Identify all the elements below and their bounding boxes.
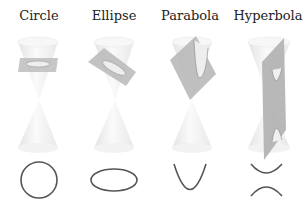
hyperbola-cone-icon <box>248 37 290 160</box>
hyperbola-curve-upper <box>251 164 282 173</box>
parabola-curve <box>174 164 206 190</box>
ellipse-curve <box>91 169 137 191</box>
hyperbola-curve-lower <box>251 187 282 196</box>
ellipse-cone-icon <box>88 37 136 153</box>
conic-sections-diagram <box>0 0 304 213</box>
parabola-cone-icon <box>170 36 216 153</box>
circle-cone-icon <box>18 37 58 153</box>
circle-curve <box>21 162 57 198</box>
